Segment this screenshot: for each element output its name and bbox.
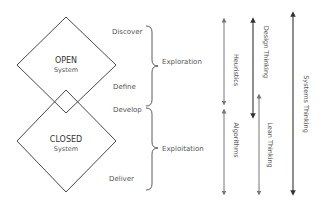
phase-discover: Discover (112, 29, 142, 36)
group-exploitation: Exploitation (162, 146, 204, 153)
label-lean-thinking: Lean Thinking (267, 122, 274, 168)
closed-system-title: CLOSED (50, 136, 82, 144)
phase-deliver: Deliver (109, 176, 134, 183)
open-system-subtitle: System (54, 67, 78, 74)
group-exploration: Exploration (162, 59, 202, 66)
open-system-label: OPEN System (54, 57, 78, 74)
phase-develop: Develop (113, 107, 142, 114)
diagram-canvas (0, 0, 324, 203)
closed-system-subtitle: System (50, 146, 82, 153)
open-system-title: OPEN (54, 57, 78, 65)
label-algorithms: Algorithms (233, 122, 240, 157)
label-design-thinking: Design Thinking (263, 26, 270, 78)
exploration-brace (146, 26, 158, 106)
label-heuristics: Heuristics (233, 54, 240, 86)
phase-define: Define (113, 84, 136, 91)
label-systems-thinking: Systems Thinking (303, 75, 310, 133)
closed-system-label: CLOSED System (50, 136, 82, 153)
exploitation-brace (146, 108, 158, 190)
